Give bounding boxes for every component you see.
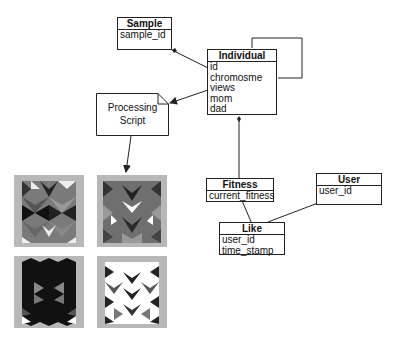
entity-attr: id [208, 62, 276, 73]
entity-individual[interactable]: Individual id chromosme views mom dad [207, 49, 277, 115]
entity-like[interactable]: Like user_id time_stamp [219, 222, 285, 255]
entity-attr: current_fitness [207, 191, 273, 202]
entity-sample[interactable]: Sample sample_id [117, 17, 172, 50]
pattern-thumbnail-4 [97, 256, 167, 328]
pattern-thumbnail-2 [97, 175, 167, 247]
entity-user[interactable]: User user_id [316, 173, 382, 205]
entity-fitness[interactable]: Fitness current_fitness [206, 178, 274, 202]
processing-script-note[interactable]: Processing Script [96, 93, 169, 136]
entity-attr: time_stamp [220, 246, 284, 257]
entity-attr: user_id [317, 186, 381, 197]
note-line: Script [96, 114, 169, 127]
note-line: Processing [96, 101, 169, 114]
pattern-thumbnail-3 [14, 256, 84, 328]
entity-attr: views [208, 83, 276, 94]
pattern-thumbnail-1 [14, 175, 84, 247]
entity-attr: sample_id [118, 30, 171, 41]
entity-attr: dad [208, 104, 276, 115]
entity-attr: user_id [220, 235, 284, 246]
entity-title: Individual [208, 50, 276, 62]
